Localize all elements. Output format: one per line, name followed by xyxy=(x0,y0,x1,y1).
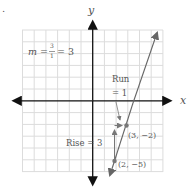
point-label-2-neg5: (2, −5) xyxy=(118,160,146,169)
point-label-3-neg2: (3, −2) xyxy=(128,131,156,140)
slope-numerator: 3 xyxy=(50,42,54,49)
slope-m: m xyxy=(28,46,37,57)
point-2-neg5 xyxy=(112,159,116,163)
slope-result: = 3 xyxy=(57,46,74,57)
run-label: Run xyxy=(112,74,130,84)
graphed-line xyxy=(133,33,157,103)
run-label-value: = 1 xyxy=(112,88,127,98)
x-axis-label: x xyxy=(180,94,187,107)
rise-label: Rise = 3 xyxy=(66,138,102,148)
point-3-neg2 xyxy=(124,123,128,127)
y-axis-label: y xyxy=(87,4,95,17)
coordinate-plane: . y x m = 3 1 = 3 Run = 1 Rise = 3 (3, −… xyxy=(0,0,194,191)
slope-denominator: 1 xyxy=(50,52,54,59)
slope-equals: = xyxy=(40,46,48,57)
bullet: . xyxy=(2,3,5,14)
